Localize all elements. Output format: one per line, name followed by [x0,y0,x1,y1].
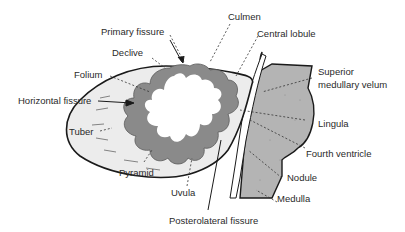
label-tuber: Tuber [69,126,93,137]
label-nodule: Nodule [287,172,317,183]
label-horizontal-fissure: Horizontal fissure [18,95,91,106]
label-lingula: Lingula [318,118,349,129]
label-declive: Declive [112,47,143,58]
label-primary-fissure: Primary fissure [101,26,164,37]
label-fourth-ventricle: Fourth ventricle [306,148,371,159]
label-superior-medullary-velum: Superior [318,66,354,77]
label-posterolateral-fissure: Posterolateral fissure [169,215,258,226]
label-culmen: Culmen [228,11,261,22]
label-uvula: Uvula [171,187,195,198]
label-central-lobule: Central lobule [257,28,316,39]
label-pyramid: Pyramid [119,167,154,178]
label-superior-medullary-velum-2: medullary velum [318,79,387,90]
cerebellum-diagram [0,0,405,232]
label-folium: Folium [74,69,103,80]
label-medulla: Medulla [277,193,310,204]
